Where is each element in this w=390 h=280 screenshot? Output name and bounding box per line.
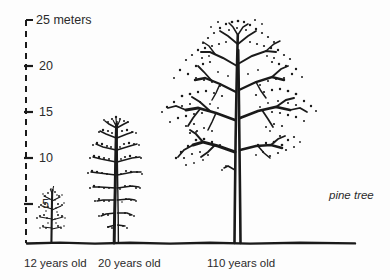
y-axis <box>24 20 33 243</box>
tree-20-years-old <box>87 116 143 243</box>
tree-110-years-old <box>161 19 317 243</box>
axis-unit-label: 25 meters <box>36 14 92 27</box>
ground-line <box>27 243 355 244</box>
tree-12-trunk <box>51 190 52 243</box>
tree-20-trunk-edge <box>117 130 118 243</box>
axis-tick-label-20: 20 <box>39 60 53 73</box>
age-label-20-years: 20 years old <box>98 258 161 270</box>
pine-growth-illustration <box>0 0 390 280</box>
axis-tick-label-5: 5 <box>42 198 49 211</box>
figure-canvas: 25 meters 20 15 10 5 12 years old 20 yea… <box>0 0 390 280</box>
tree-110-trunk-right <box>238 50 240 243</box>
age-label-12-years: 12 years old <box>24 258 87 270</box>
species-caption: pine tree <box>329 190 374 202</box>
tree-12-years-old <box>36 186 66 243</box>
age-label-110-years: 110 years old <box>207 258 275 270</box>
axis-tick-label-15: 15 <box>39 106 53 119</box>
axis-tick-label-10: 10 <box>39 152 53 165</box>
